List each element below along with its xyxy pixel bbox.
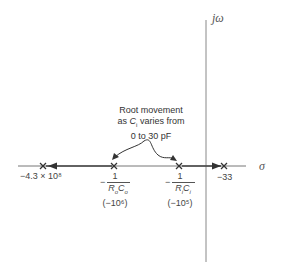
pole-label-4: −33 (217, 173, 232, 182)
annotation-line-1: Root movement (106, 105, 196, 116)
pole-label-3: − 1 RiCi (−10⁵) (165, 172, 195, 208)
arrowhead-left-icon (48, 163, 57, 170)
annotation-arrowhead-left-icon (112, 153, 119, 160)
arrowhead-right-icon (212, 163, 221, 170)
imaginary-axis-label: jω (212, 12, 224, 24)
pole-label-1: −4.3 × 10⁸ (20, 172, 62, 181)
annotation-line-2: as Ci varies from (106, 116, 196, 131)
annotation-line-3: 0 to 30 pF (106, 131, 196, 142)
root-movement-annotation: Root movement as Ci varies from 0 to 30 … (106, 105, 196, 142)
real-axis-label: σ (259, 160, 265, 172)
annotation-arrow-right (144, 140, 174, 159)
annotation-arrow-left (115, 141, 144, 157)
pole-label-2: − 1 RoCo (−10⁶) (100, 172, 130, 208)
